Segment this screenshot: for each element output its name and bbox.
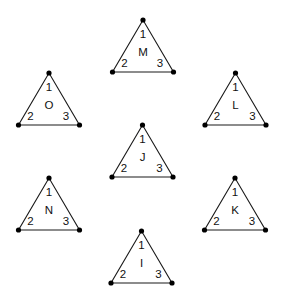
corner-label-3: 3 [157, 57, 163, 69]
triangle-o: 1 O 2 3 [16, 70, 82, 127]
triangle-letter: O [45, 99, 54, 111]
vertex-dot-1 [232, 175, 237, 180]
corner-label-3: 3 [63, 215, 69, 227]
vertex-dot-2 [108, 280, 113, 285]
vertex-dot-2 [16, 122, 21, 127]
vertex-dot-2 [202, 122, 207, 127]
vertex-dot-2 [110, 69, 115, 74]
triangle-n: 1 N 2 3 [16, 175, 82, 232]
corner-label-3: 3 [249, 110, 255, 122]
vertex-dot-2 [202, 227, 207, 232]
triangle-letter: K [231, 204, 239, 216]
corner-label-3: 3 [156, 162, 162, 174]
vertex-dot-3 [169, 280, 174, 285]
corner-label-2: 2 [121, 162, 127, 174]
corner-label-2: 2 [120, 268, 126, 280]
vertex-dot-1 [233, 70, 238, 75]
corner-label-2: 2 [121, 57, 127, 69]
vertex-dot-3 [263, 122, 268, 127]
vertex-dot-3 [77, 122, 82, 127]
vertex-dot-3 [171, 69, 176, 74]
triangle-diagram: 1 M 2 3 1 O 2 3 1 L 2 3 1 J 2 3 [0, 0, 282, 303]
vertex-dot-2 [16, 227, 21, 232]
vertex-dot-1 [140, 17, 145, 22]
vertex-dot-2 [109, 174, 114, 179]
triangle-letter: N [45, 204, 53, 216]
vertex-dot-3 [263, 227, 268, 232]
vertex-dot-1 [139, 228, 144, 233]
corner-label-3: 3 [63, 110, 69, 122]
triangle-letter: J [140, 151, 146, 163]
vertex-dot-1 [140, 122, 145, 127]
triangle-letter: I [140, 257, 143, 269]
corner-label-2: 2 [27, 110, 33, 122]
triangle-m: 1 M 2 3 [110, 17, 176, 74]
corner-label-1: 1 [138, 239, 144, 251]
corner-label-1: 1 [232, 81, 238, 93]
vertex-dot-1 [46, 175, 51, 180]
vertex-dot-3 [170, 174, 175, 179]
triangle-letter: M [138, 46, 148, 58]
corner-label-1: 1 [46, 186, 52, 198]
corner-label-1: 1 [140, 28, 146, 40]
triangle-letter: L [232, 99, 239, 111]
triangle-l: 1 L 2 3 [202, 70, 268, 127]
corner-label-2: 2 [214, 110, 220, 122]
vertex-dot-3 [77, 227, 82, 232]
corner-label-1: 1 [232, 186, 238, 198]
corner-label-2: 2 [27, 215, 33, 227]
corner-label-1: 1 [139, 133, 145, 145]
triangle-j: 1 J 2 3 [109, 122, 175, 179]
triangle-k: 1 K 2 3 [202, 175, 268, 232]
triangle-i: 1 I 2 3 [108, 228, 174, 285]
corner-label-2: 2 [213, 215, 219, 227]
corner-label-1: 1 [46, 81, 52, 93]
corner-label-3: 3 [155, 268, 161, 280]
vertex-dot-1 [46, 70, 51, 75]
corner-label-3: 3 [249, 215, 255, 227]
